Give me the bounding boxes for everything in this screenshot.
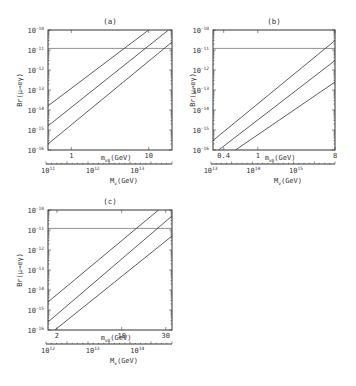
y-tick-label: 10-13 [192, 86, 209, 96]
y-tick-exponent: -13 [201, 86, 209, 91]
y-tick-label: 10-15 [27, 306, 44, 316]
y-tick-label: 10-12 [27, 246, 44, 256]
x-tick-label: 2 [55, 332, 59, 340]
plot-frame [48, 30, 172, 150]
y-tick-exponent: -16 [36, 326, 44, 331]
secondary-tick-exponent: 12 [50, 346, 56, 351]
secondary-axis-label: Mν(GeV) [110, 357, 138, 366]
y-tick-label: 10-14 [27, 106, 44, 116]
y-tick-label: 10-13 [27, 266, 44, 276]
chart-title: (c) [103, 197, 117, 206]
series-line-upper [48, 30, 149, 106]
y-tick-exponent: -16 [201, 146, 209, 151]
secondary-tick-exponent: 14 [139, 346, 145, 351]
secondary-tick-label: 1014 [246, 166, 260, 176]
series-line-lower [236, 82, 336, 150]
secondary-tick-exponent: 11 [50, 166, 56, 171]
series-line-lower [48, 42, 172, 144]
y-tick-exponent: -11 [36, 46, 44, 51]
y-axis-label: Br(μ→eγ) [16, 253, 24, 287]
secondary-label-unit: (GeV) [117, 357, 138, 365]
x-axis-label: mν0(GeV) [101, 334, 132, 343]
series-line-lower [55, 236, 172, 330]
secondary-tick-exponent: 12 [94, 166, 100, 171]
x-tick-label: 1 [69, 152, 73, 160]
y-tick-exponent: -10 [36, 26, 44, 31]
series-line-middle [48, 30, 169, 126]
secondary-tick-label: 1012 [86, 166, 100, 176]
secondary-axis-label: Mν(GeV) [110, 177, 138, 186]
x-label-unit: (GeV) [274, 154, 295, 162]
y-tick-exponent: -15 [36, 306, 44, 311]
y-tick-label: 10-16 [27, 326, 44, 336]
y-tick-exponent: -11 [201, 46, 209, 51]
y-tick-label: 10-16 [27, 146, 44, 156]
series-line-upper [213, 41, 335, 141]
x-tick-label: 1 [256, 152, 260, 160]
panel-c: (c)Br(μ→eγ)10-1010-1110-1210-1310-1410-1… [16, 197, 172, 366]
x-tick-label: 30 [162, 332, 170, 340]
x-tick-label: 0.4 [217, 152, 230, 160]
y-tick-label: 10-16 [192, 146, 209, 156]
x-tick-label: 8 [333, 152, 337, 160]
y-axis-label: Br(μ→eγ) [16, 73, 24, 107]
y-tick-exponent: -14 [36, 106, 44, 111]
y-tick-exponent: -16 [36, 146, 44, 151]
figure: (a)Br(μ→eγ)10-1010-1110-1210-1310-1410-1… [0, 0, 356, 386]
y-tick-exponent: -13 [36, 86, 44, 91]
plot-frame [48, 210, 172, 330]
y-tick-label: 10-11 [27, 46, 44, 56]
y-tick-label: 10-11 [192, 46, 209, 56]
y-tick-exponent: -11 [36, 226, 44, 231]
chart-title: (b) [267, 17, 281, 26]
y-tick-exponent: -15 [36, 126, 44, 131]
y-tick-exponent: -15 [201, 126, 209, 131]
secondary-tick-label: 1012 [41, 346, 55, 356]
secondary-tick-label: 1013 [86, 346, 100, 356]
secondary-tick-exponent: 14 [255, 166, 261, 171]
y-tick-exponent: -12 [36, 66, 44, 71]
y-tick-label: 10-14 [192, 106, 209, 116]
y-tick-label: 10-10 [192, 26, 209, 36]
y-tick-label: 10-12 [192, 66, 209, 76]
x-label-unit: (GeV) [110, 154, 131, 162]
secondary-tick-label: 1014 [130, 346, 144, 356]
x-axis-label: mν0(GeV) [265, 154, 296, 163]
secondary-tick-exponent: 13 [139, 166, 145, 171]
secondary-tick-label: 1013 [130, 166, 144, 176]
secondary-tick-label: 1013 [204, 166, 218, 176]
y-tick-label: 10-14 [27, 286, 44, 296]
y-tick-label: 10-15 [192, 126, 209, 136]
secondary-axis-label: Mν(GeV) [274, 177, 302, 186]
secondary-tick-label: 1015 [289, 166, 303, 176]
secondary-tick-exponent: 13 [212, 166, 218, 171]
y-tick-exponent: -14 [36, 286, 44, 291]
secondary-tick-exponent: 15 [297, 166, 303, 171]
x-label-unit: (GeV) [110, 334, 131, 342]
secondary-label-unit: (GeV) [281, 177, 302, 185]
y-tick-label: 10-12 [27, 66, 44, 76]
series-line-middle [219, 61, 335, 151]
y-tick-label: 10-13 [27, 86, 44, 96]
y-tick-exponent: -13 [36, 266, 44, 271]
y-tick-exponent: -10 [36, 206, 44, 211]
series-line-middle [48, 216, 172, 322]
y-tick-exponent: -14 [201, 106, 209, 111]
y-tick-exponent: -12 [201, 66, 209, 71]
secondary-tick-label: 1011 [41, 166, 55, 176]
secondary-tick-exponent: 13 [94, 346, 100, 351]
chart-title: (a) [103, 17, 117, 26]
x-axis-label: mν0(GeV) [101, 154, 132, 163]
x-tick-label: 10 [144, 152, 152, 160]
panel-a: (a)Br(μ→eγ)10-1010-1110-1210-1310-1410-1… [16, 17, 172, 186]
y-tick-exponent: -12 [36, 246, 44, 251]
y-tick-label: 10-11 [27, 226, 44, 236]
y-tick-label: 10-10 [27, 206, 44, 216]
series-line-upper [48, 210, 159, 302]
y-tick-label: 10-10 [27, 26, 44, 36]
secondary-label-unit: (GeV) [117, 177, 138, 185]
y-tick-label: 10-15 [27, 126, 44, 136]
panel-b: (b)Br(μ→eγ)10-1010-1110-1210-1310-1410-1… [189, 17, 337, 186]
y-tick-exponent: -10 [201, 26, 209, 31]
